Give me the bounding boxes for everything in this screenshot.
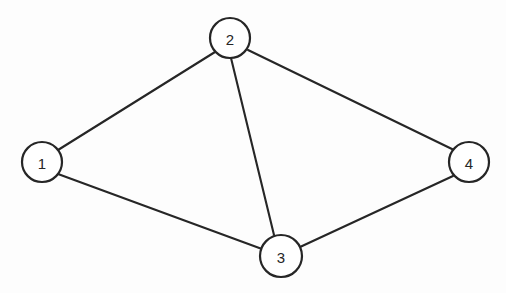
edge-2-3: [231, 58, 274, 235]
node-group: 1 2 3 4: [22, 18, 489, 277]
node-2[interactable]: 2: [210, 18, 250, 58]
edge-3-4: [300, 176, 453, 247]
node-2-label: 2: [226, 31, 234, 48]
node-3[interactable]: 3: [260, 235, 302, 277]
edge-group: [58, 50, 454, 249]
graph-diagram-container: 1 2 3 4: [0, 0, 506, 293]
edge-1-3: [58, 174, 262, 249]
node-1-label: 1: [38, 155, 46, 172]
node-1[interactable]: 1: [22, 142, 62, 182]
node-4[interactable]: 4: [449, 142, 489, 182]
graph-canvas: 1 2 3 4: [0, 0, 506, 293]
node-4-label: 4: [465, 155, 473, 172]
node-3-label: 3: [277, 249, 285, 266]
edge-2-4: [248, 50, 454, 150]
edge-1-2: [58, 52, 215, 150]
